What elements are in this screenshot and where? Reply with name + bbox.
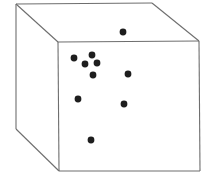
cube-edge-back-top <box>16 3 152 4</box>
data-point <box>121 101 128 108</box>
cube-diagram <box>0 0 213 182</box>
data-point <box>94 60 101 67</box>
cube-scatter-canvas <box>0 0 213 182</box>
data-point <box>82 61 89 68</box>
cube-edge-top-right-depth <box>152 3 199 41</box>
cube-edge-front-right <box>199 41 200 171</box>
data-point <box>120 29 127 36</box>
data-point <box>75 96 82 103</box>
cube-edge-front-top <box>58 41 199 42</box>
cube-edge-front-left <box>58 42 59 171</box>
data-point <box>71 55 78 62</box>
cube-edges <box>16 3 200 171</box>
data-point <box>125 71 132 78</box>
data-point <box>90 72 97 79</box>
data-point <box>88 137 95 144</box>
data-points <box>71 29 132 144</box>
data-point <box>89 52 96 59</box>
cube-edge-top-left-depth <box>16 4 58 42</box>
cube-edge-bottom-left-depth <box>16 129 59 171</box>
